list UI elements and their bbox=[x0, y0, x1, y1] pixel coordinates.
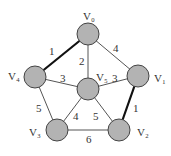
node-label: V₅ bbox=[96, 71, 108, 83]
edge-weight-label: 5 bbox=[93, 110, 99, 122]
node-v0 bbox=[77, 23, 99, 45]
edge-weight-label: 2 bbox=[79, 55, 85, 67]
node-v2 bbox=[108, 119, 130, 141]
edge-weight-label: 4 bbox=[73, 110, 79, 122]
edge-weight-label: 5 bbox=[36, 102, 42, 114]
node-label: V₂ bbox=[137, 126, 149, 138]
nodes-layer: V₀V₁V₂V₃V₄V₅ bbox=[8, 10, 166, 141]
edge-weight-label: 1 bbox=[133, 102, 139, 114]
node-v4 bbox=[24, 66, 46, 88]
edge-weight-label: 3 bbox=[112, 72, 118, 84]
node-label: V₄ bbox=[8, 70, 20, 82]
node-label: V₃ bbox=[29, 126, 41, 138]
graph-diagram: 1243315456 V₀V₁V₂V₃V₄V₅ bbox=[0, 0, 171, 156]
edge-weight-label: 4 bbox=[113, 42, 119, 54]
node-v1 bbox=[127, 65, 149, 87]
edge-weight-label: 1 bbox=[49, 45, 55, 57]
edge-weight-label: 6 bbox=[86, 133, 92, 145]
node-label: V₁ bbox=[154, 72, 166, 84]
node-v3 bbox=[46, 119, 68, 141]
edge-weight-label: 3 bbox=[60, 72, 66, 84]
node-label: V₀ bbox=[83, 10, 95, 22]
